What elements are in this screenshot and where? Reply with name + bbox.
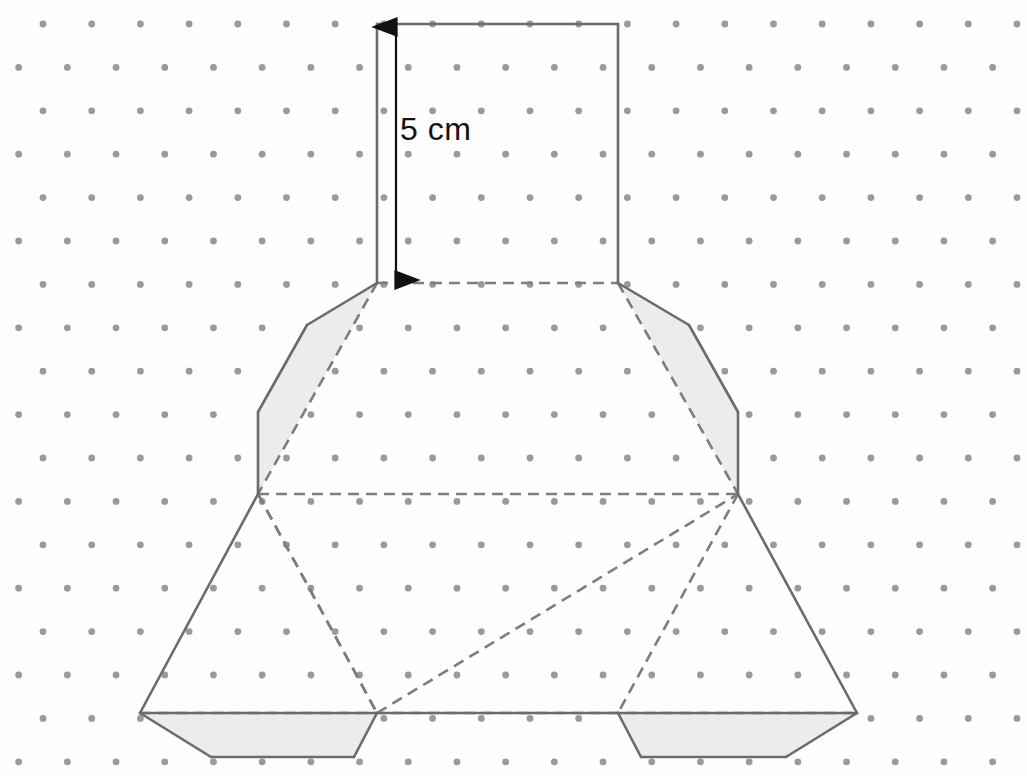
grid-dot — [794, 498, 801, 505]
grid-dot — [502, 498, 509, 505]
grid-dot — [15, 758, 22, 765]
grid-dot — [989, 585, 996, 592]
grid-dot — [234, 281, 241, 288]
grid-dot — [307, 498, 314, 505]
grid-dot — [137, 107, 144, 114]
grid-dot — [186, 21, 193, 28]
grid-dot — [210, 672, 217, 679]
grid-dot — [721, 368, 728, 375]
grid-dot — [1014, 628, 1021, 635]
grid-dot — [794, 324, 801, 331]
grid-dot — [819, 541, 826, 548]
grid-dot — [502, 672, 509, 679]
grid-dot — [356, 585, 363, 592]
grid-dot — [454, 151, 461, 158]
grid-dot — [405, 672, 412, 679]
grid-dot — [259, 238, 266, 245]
grid-dot — [307, 64, 314, 71]
grid-dot — [40, 107, 47, 114]
grid-dot — [478, 455, 485, 462]
grid-dot — [868, 541, 875, 548]
grid-dot — [332, 368, 339, 375]
grid-dot — [186, 628, 193, 635]
grid-dot — [746, 151, 753, 158]
grid-dot — [965, 368, 972, 375]
grid-dot — [673, 541, 680, 548]
grid-dot — [624, 107, 631, 114]
grid-dot — [234, 455, 241, 462]
grid-dot — [989, 64, 996, 71]
grid-dot — [454, 64, 461, 71]
grid-dot — [600, 672, 607, 679]
net-diagram — [0, 0, 1027, 776]
grid-dot — [210, 238, 217, 245]
grid-dot — [916, 455, 923, 462]
grid-dot — [137, 194, 144, 201]
grid-dot — [1014, 368, 1021, 375]
grid-dot — [892, 585, 899, 592]
grid-dot — [941, 411, 948, 418]
grid-dot — [64, 498, 71, 505]
grid-dot — [551, 411, 558, 418]
grid-dot — [941, 498, 948, 505]
grid-dot — [429, 715, 436, 722]
grid-dot — [916, 541, 923, 548]
grid-dot — [332, 194, 339, 201]
grid-dot — [429, 541, 436, 548]
grid-dot — [892, 238, 899, 245]
grid-dot — [307, 672, 314, 679]
grid-dot — [868, 21, 875, 28]
grid-dot — [502, 758, 509, 765]
grid-dot — [746, 324, 753, 331]
grid-dot — [600, 585, 607, 592]
grid-dot — [64, 64, 71, 71]
grid-dot — [234, 628, 241, 635]
dimension-label-5cm: 5 cm — [400, 113, 471, 145]
grid-dot — [15, 672, 22, 679]
grid-dot — [868, 368, 875, 375]
grid-dot — [819, 628, 826, 635]
grid-dot — [259, 64, 266, 71]
grid-dot — [40, 21, 47, 28]
grid-dot — [40, 194, 47, 201]
grid-dot — [283, 107, 290, 114]
grid-dot — [843, 498, 850, 505]
grid-dot — [916, 281, 923, 288]
grid-dot — [965, 541, 972, 548]
grid-dot — [600, 238, 607, 245]
grid-dot — [892, 324, 899, 331]
grid-dot — [283, 194, 290, 201]
grid-dot — [40, 628, 47, 635]
grid-dot — [746, 585, 753, 592]
grid-dot — [697, 64, 704, 71]
grid-dot — [575, 107, 582, 114]
grid-dot — [210, 151, 217, 158]
grid-dot — [113, 64, 120, 71]
grid-dot — [746, 64, 753, 71]
grid-dot — [770, 368, 777, 375]
grid-dot — [15, 151, 22, 158]
grid-dot — [527, 368, 534, 375]
grid-dot — [843, 238, 850, 245]
grid-dot — [356, 758, 363, 765]
grid-dot — [624, 194, 631, 201]
grid-dot — [916, 628, 923, 635]
grid-dot — [794, 238, 801, 245]
grid-dot — [746, 672, 753, 679]
grid-dot — [868, 715, 875, 722]
grid-dot — [575, 368, 582, 375]
grid-dot — [770, 455, 777, 462]
grid-dot — [478, 541, 485, 548]
grid-dot — [88, 368, 95, 375]
grid-dot — [15, 411, 22, 418]
grid-dot — [868, 455, 875, 462]
grid-dot — [989, 498, 996, 505]
grid-dot — [600, 411, 607, 418]
grid-dot — [502, 151, 509, 158]
grid-dot — [624, 541, 631, 548]
grid-dot — [381, 194, 388, 201]
grid-dot — [502, 411, 509, 418]
grid-dot — [624, 628, 631, 635]
grid-dot — [697, 585, 704, 592]
grid-dot — [502, 585, 509, 592]
